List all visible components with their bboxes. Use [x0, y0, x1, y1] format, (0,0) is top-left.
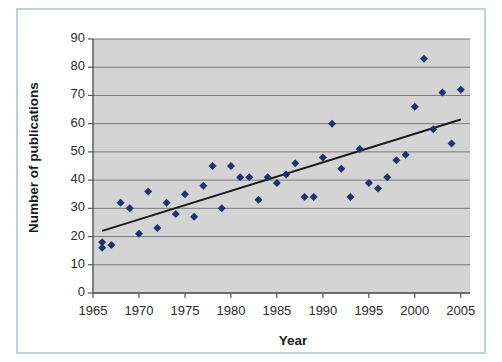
- x-tick-label: 1985: [254, 303, 300, 318]
- y-tick-label: 80: [51, 58, 85, 73]
- y-tick-label: 60: [51, 115, 85, 130]
- x-tick-label: 2000: [392, 303, 438, 318]
- y-axis-title: Number of publications: [26, 58, 41, 258]
- x-tick-label: 1990: [300, 303, 346, 318]
- y-tick-label: 70: [51, 86, 85, 101]
- x-tick-label: 1995: [346, 303, 392, 318]
- y-tick-label: 10: [51, 256, 85, 271]
- x-tick-label: 1980: [208, 303, 254, 318]
- y-tick-label: 40: [51, 171, 85, 186]
- scatter-plot: 0102030405060708090 19651970197519801985…: [0, 0, 502, 362]
- y-tick-label: 50: [51, 143, 85, 158]
- x-axis-title: Year: [93, 333, 493, 348]
- x-tick-label: 1970: [116, 303, 162, 318]
- y-tick-label: 0: [51, 284, 85, 299]
- x-tick-label: 2005: [438, 303, 484, 318]
- y-tick-label: 30: [51, 199, 85, 214]
- y-tick-label: 20: [51, 228, 85, 243]
- x-tick-label: 1975: [162, 303, 208, 318]
- chart-figure: 0102030405060708090 19651970197519801985…: [0, 0, 502, 362]
- y-tick-label: 90: [51, 30, 85, 45]
- x-tick-label: 1965: [70, 303, 116, 318]
